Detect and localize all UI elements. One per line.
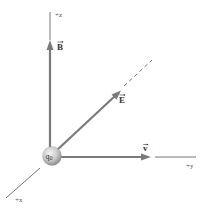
- svg-text:E: E: [119, 95, 125, 105]
- v-vector-label: v: [143, 143, 149, 153]
- x-axis: +x: [6, 168, 40, 204]
- b-arrowhead-icon: [47, 40, 54, 50]
- x-axis-label: +x: [15, 196, 23, 204]
- charge-q0: q0: [43, 147, 62, 166]
- z-axis-label: +z: [55, 11, 62, 19]
- y-axis: +y: [155, 157, 196, 170]
- v-arrowhead-icon: [141, 154, 151, 161]
- y-axis-label: +y: [186, 162, 194, 170]
- svg-text:B: B: [57, 42, 63, 52]
- e-vector-label: E: [119, 94, 126, 105]
- vector-diagram: +z B E v +y: [0, 0, 203, 208]
- e-dashed-extension: [124, 60, 152, 86]
- e-field-vector: E: [56, 60, 152, 151]
- velocity-vector: v: [60, 143, 151, 161]
- b-field-vector: B: [47, 40, 64, 148]
- b-vector-label: B: [57, 41, 64, 52]
- z-axis: +z: [50, 11, 62, 40]
